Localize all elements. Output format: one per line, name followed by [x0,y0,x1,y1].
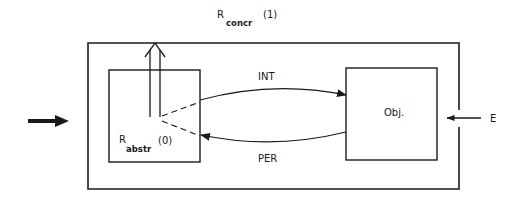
int-label: INT [258,71,275,82]
double-up-arrow-icon [145,43,165,117]
abstract-subscript: abstr [126,144,152,154]
per-arc-arrow [201,132,346,142]
environment-label: E [490,113,496,124]
object-label: Obj. [384,107,404,118]
dashed-connectors [162,102,200,136]
input-arrow-icon [28,115,69,127]
abstract-system-label: R abstr (0) [119,134,172,154]
per-label: PER [258,153,277,164]
int-arc-arrow [200,89,346,100]
title-subscript: concr [226,18,253,28]
title-label: R concr (1) [217,9,277,28]
concrete-system-diagram: R concr (1) Obj. INT PER R abstr (0) [0,0,520,202]
title-symbol: R [217,9,224,20]
abstract-system-box [109,70,200,162]
abstract-symbol: R [119,134,126,145]
abstract-index: (0) [158,135,172,146]
title-index: (1) [263,9,277,20]
